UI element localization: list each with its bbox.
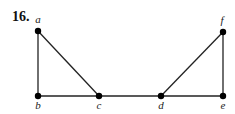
edge-a-c xyxy=(38,31,99,96)
vertices-group xyxy=(35,28,226,99)
vertex-label-e: e xyxy=(221,99,226,111)
graph-diagram: abcdef xyxy=(0,0,235,114)
vertex-label-c: c xyxy=(97,99,102,111)
vertex-label-a: a xyxy=(35,13,41,25)
vertex-a xyxy=(35,28,41,34)
vertex-f xyxy=(220,29,226,35)
vertex-label-d: d xyxy=(158,99,164,111)
vertex-label-f: f xyxy=(220,14,225,26)
vertex-label-b: b xyxy=(35,99,41,111)
edges-group xyxy=(38,31,223,96)
edge-d-f xyxy=(161,32,223,96)
